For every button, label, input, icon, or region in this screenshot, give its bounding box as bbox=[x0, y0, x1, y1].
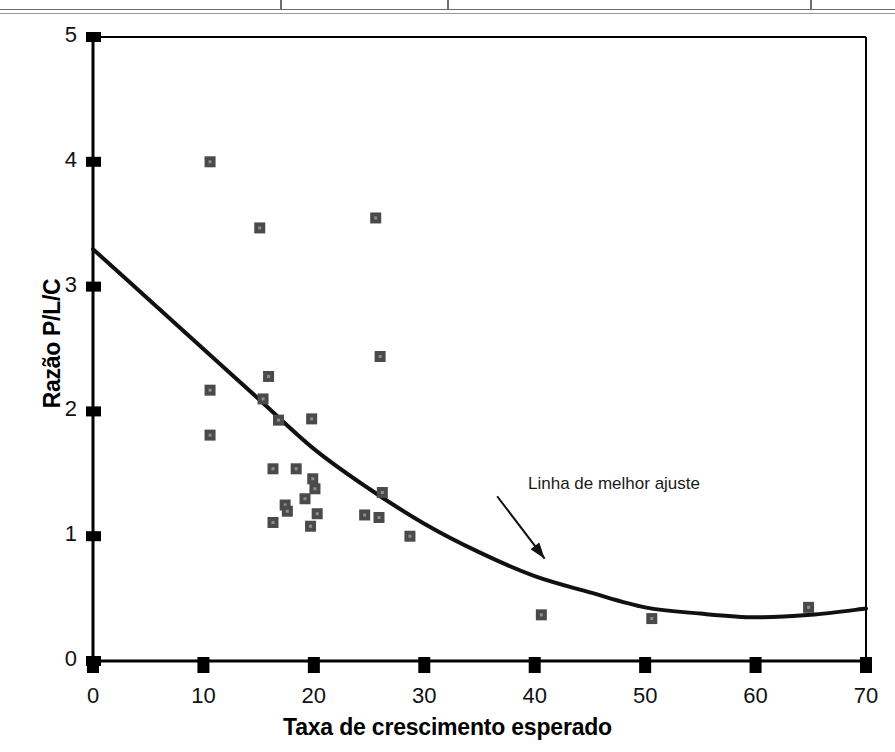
data-point-core bbox=[295, 467, 298, 470]
x-tick-mark bbox=[197, 657, 209, 673]
y-tick-label: 1 bbox=[31, 521, 77, 547]
annotation-arrow-group bbox=[497, 496, 545, 558]
data-point-core bbox=[304, 497, 307, 500]
data-point-core bbox=[313, 487, 316, 490]
data-point-core bbox=[262, 397, 265, 400]
data-point-core bbox=[378, 516, 381, 519]
x-tick-label: 30 bbox=[394, 683, 454, 709]
x-tick-mark bbox=[860, 657, 872, 673]
data-point-core bbox=[540, 613, 543, 616]
data-point-core bbox=[272, 521, 275, 524]
data-point-core bbox=[309, 525, 312, 528]
data-point-core bbox=[650, 617, 653, 620]
x-tick-mark bbox=[750, 657, 762, 673]
data-point-core bbox=[374, 216, 377, 219]
fit-line-annotation-label: Linha de melhor ajuste bbox=[528, 474, 700, 494]
x-tick-mark bbox=[639, 657, 651, 673]
data-point-core bbox=[408, 535, 411, 538]
y-tick-mark bbox=[86, 282, 101, 292]
tick-marks-group bbox=[86, 32, 872, 673]
data-point-core bbox=[807, 606, 810, 609]
y-tick-label: 4 bbox=[31, 147, 77, 173]
y-tick-mark bbox=[86, 531, 101, 541]
x-tick-label: 40 bbox=[505, 683, 565, 709]
x-tick-label: 10 bbox=[173, 683, 233, 709]
y-tick-label: 5 bbox=[31, 22, 77, 48]
x-axis-title: Taxa de crescimento esperado bbox=[0, 714, 895, 741]
data-point-core bbox=[209, 434, 212, 437]
data-point-core bbox=[316, 512, 319, 515]
y-tick-mark bbox=[86, 32, 101, 42]
x-tick-label: 70 bbox=[836, 683, 895, 709]
data-points-group bbox=[205, 156, 815, 624]
data-point-core bbox=[310, 417, 313, 420]
x-tick-mark bbox=[529, 657, 541, 673]
axes-group bbox=[93, 37, 866, 661]
data-point-core bbox=[209, 389, 212, 392]
x-tick-label: 60 bbox=[726, 683, 786, 709]
data-point-core bbox=[272, 467, 275, 470]
data-point-core bbox=[363, 513, 366, 516]
scatter-chart: 012345010203040506070 Razão P/L/C Taxa d… bbox=[0, 0, 895, 752]
data-point-core bbox=[311, 477, 314, 480]
x-tick-mark bbox=[87, 657, 99, 673]
data-point-core bbox=[267, 375, 270, 378]
data-point-core bbox=[379, 355, 382, 358]
x-tick-label: 0 bbox=[63, 683, 123, 709]
y-tick-mark bbox=[86, 157, 101, 167]
data-point-core bbox=[258, 226, 261, 229]
x-tick-mark bbox=[418, 657, 430, 673]
plot-canvas bbox=[0, 0, 895, 752]
x-tick-label: 50 bbox=[615, 683, 675, 709]
data-point-core bbox=[209, 160, 212, 163]
y-axis-title: Razão P/L/C bbox=[39, 234, 66, 454]
y-tick-mark bbox=[86, 406, 101, 416]
y-tick-label: 0 bbox=[31, 646, 77, 672]
x-tick-label: 20 bbox=[284, 683, 344, 709]
data-point-core bbox=[286, 510, 289, 513]
data-point-core bbox=[381, 491, 384, 494]
x-tick-mark bbox=[308, 657, 320, 673]
annotation-arrow-head bbox=[531, 543, 545, 559]
data-point-core bbox=[277, 419, 280, 422]
